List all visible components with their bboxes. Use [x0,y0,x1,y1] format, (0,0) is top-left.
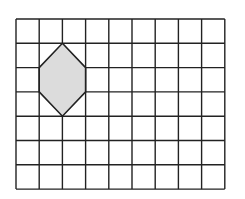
hexagon-shape [39,43,85,116]
grid-lines [16,19,225,189]
grid-diagram [0,0,245,199]
